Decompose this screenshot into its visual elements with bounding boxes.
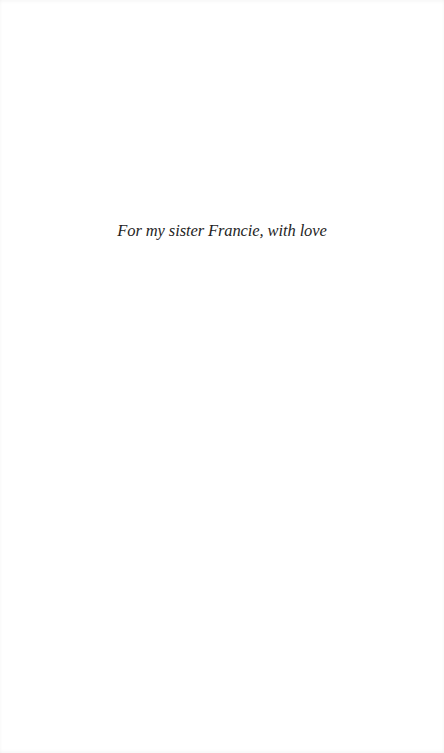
dedication-text: For my sister Francie, with love — [0, 220, 444, 242]
book-page: For my sister Francie, with love — [0, 0, 444, 753]
